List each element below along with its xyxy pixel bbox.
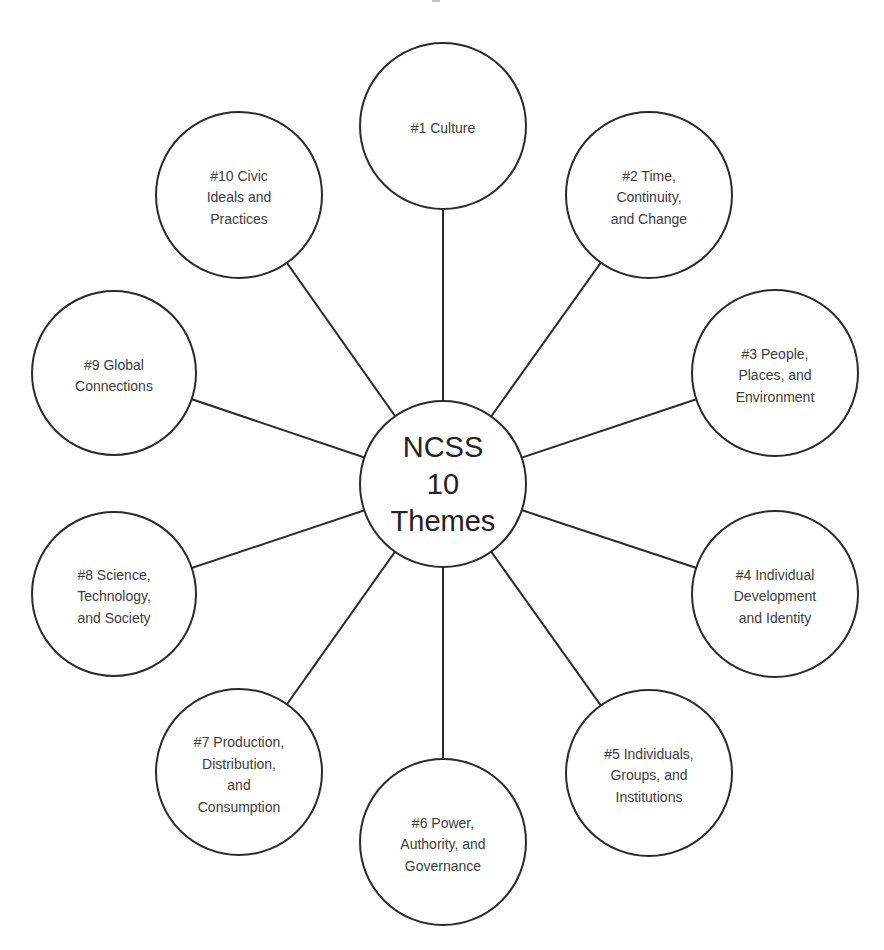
theme-label: #9 Global Connections: [75, 349, 153, 398]
theme-node-science-technology-society: #8 Science, Technology, and Society: [31, 511, 197, 677]
theme-label: #4 Individual Development and Identity: [734, 559, 817, 630]
theme-label: #5 Individuals, Groups, and Institutions: [604, 738, 694, 809]
theme-label: #8 Science, Technology, and Society: [77, 559, 151, 630]
theme-label: #3 People, Places, and Environment: [736, 338, 815, 409]
hub-label: NCSS 10 Themes: [391, 429, 496, 540]
theme-node-global-connections: #9 Global Connections: [31, 290, 197, 456]
theme-node-culture: #1 Culture: [359, 42, 527, 210]
theme-label: #1 Culture: [411, 112, 476, 140]
theme-node-power-authority-governance: #6 Power, Authority, and Governance: [359, 758, 527, 926]
theme-label: #10 Civic Ideals and Practices: [207, 160, 272, 231]
theme-node-civic-ideals-practices: #10 Civic Ideals and Practices: [155, 111, 323, 279]
theme-label: #2 Time, Continuity, and Change: [611, 160, 687, 231]
theme-node-individuals-groups-institutions: #5 Individuals, Groups, and Institutions: [565, 689, 733, 857]
theme-label: #7 Production, Distribution, and Consump…: [194, 726, 284, 818]
theme-label: #6 Power, Authority, and Governance: [400, 807, 485, 878]
theme-node-time-continuity-change: #2 Time, Continuity, and Change: [565, 111, 733, 279]
theme-node-production-distribution-consumption: #7 Production, Distribution, and Consump…: [155, 688, 323, 856]
hub-node-ncss-10-themes: NCSS 10 Themes: [359, 400, 527, 568]
theme-node-individual-development-identity: #4 Individual Development and Identity: [691, 510, 859, 678]
theme-node-people-places-environment: #3 People, Places, and Environment: [691, 289, 859, 457]
